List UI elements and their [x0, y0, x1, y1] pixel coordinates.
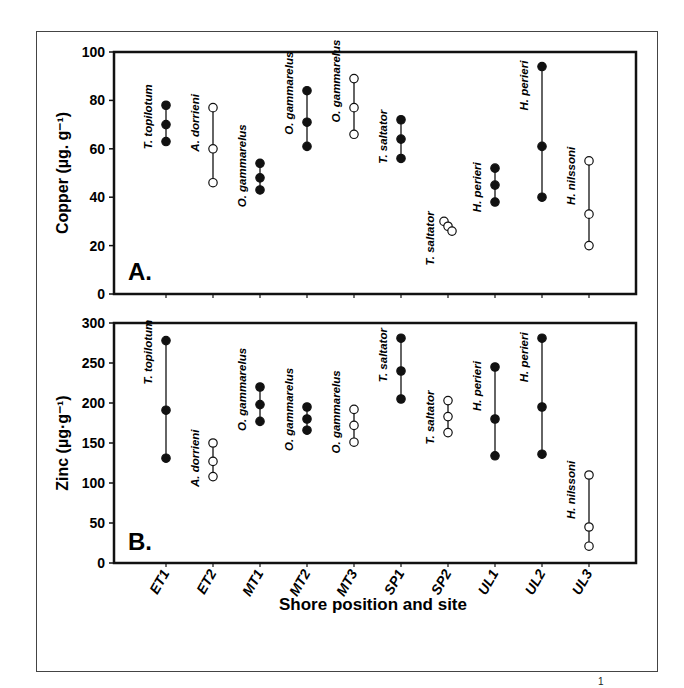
filled-data-point	[256, 417, 264, 425]
species-label: A. dorrieni	[189, 93, 201, 152]
x-tick-label: UL3	[569, 566, 596, 597]
filled-data-point	[538, 62, 546, 70]
y-axis-title: Copper (µg. g⁻¹)	[54, 112, 71, 234]
x-axis: ET1ET2MT1MT2MT3SP1SP2UL1UL2UL3	[146, 566, 596, 598]
y-tick-label: 300	[82, 315, 106, 331]
y-tick-label: 50	[89, 515, 105, 531]
filled-data-point	[162, 137, 170, 145]
x-tick-label: UL1	[475, 566, 502, 597]
species-label: T. saltator	[377, 328, 389, 383]
footnote-fragment: 1	[598, 676, 604, 687]
open-data-point	[350, 103, 358, 111]
filled-data-point	[256, 400, 264, 408]
filled-data-point	[256, 159, 264, 167]
data-series-ul3: H. nilssoni	[565, 460, 593, 550]
filled-data-point	[491, 452, 499, 460]
y-tick-label: 200	[82, 395, 106, 411]
filled-data-point	[491, 415, 499, 423]
open-data-point	[448, 227, 456, 235]
species-label: H. nilssoni	[565, 146, 577, 205]
open-data-point	[585, 157, 593, 165]
filled-data-point	[256, 383, 264, 391]
data-series-mt1: O. gammarelus	[236, 124, 264, 207]
data-series-mt1: O. gammarelus	[236, 348, 264, 431]
x-axis-title: Shore position and site	[279, 595, 467, 614]
open-data-point	[444, 428, 452, 436]
data-series-sp2: T. saltator	[424, 211, 456, 266]
open-data-point	[350, 130, 358, 138]
filled-data-point	[538, 403, 546, 411]
filled-data-point	[538, 450, 546, 458]
filled-data-point	[397, 154, 405, 162]
filled-data-point	[397, 116, 405, 124]
data-series-ul1: H. perieri	[471, 162, 499, 213]
filled-data-point	[256, 174, 264, 182]
data-series-ul2: H. perieri	[518, 60, 546, 202]
species-label: H. perieri	[518, 60, 530, 111]
filled-data-point	[303, 118, 311, 126]
open-data-point	[209, 103, 217, 111]
filled-data-point	[397, 367, 405, 375]
x-tick-label: MT2	[286, 566, 314, 598]
species-label: H. perieri	[471, 162, 483, 213]
open-data-point	[350, 438, 358, 446]
species-label: T. saltator	[424, 390, 436, 445]
data-series-ul3: H. nilssoni	[565, 146, 593, 250]
filled-data-point	[303, 426, 311, 434]
data-series-sp1: T. saltator	[377, 328, 405, 404]
open-data-point	[350, 405, 358, 413]
filled-data-point	[256, 186, 264, 194]
filled-data-point	[303, 87, 311, 95]
species-label: O. gammarelus	[283, 52, 295, 135]
data-series-ul2: H. perieri	[518, 332, 546, 459]
filled-data-point	[397, 135, 405, 143]
species-label: O. gammarelus	[330, 40, 342, 123]
open-data-point	[209, 439, 217, 447]
species-label: H. nilssoni	[565, 460, 577, 519]
panel-b-zinc: 050100150200250300Zinc (µg·g⁻¹)B.T. topi…	[54, 315, 636, 571]
y-tick-label: 60	[89, 141, 105, 157]
open-data-point	[585, 241, 593, 249]
data-series-et1: T. topilotum	[142, 84, 170, 149]
filled-data-point	[303, 403, 311, 411]
data-series-mt2: O. gammarelus	[283, 52, 311, 151]
filled-data-point	[491, 164, 499, 172]
open-data-point	[585, 210, 593, 218]
y-tick-label: 0	[97, 286, 105, 302]
data-series-sp1: T. saltator	[377, 109, 405, 164]
panel-label: A.	[128, 258, 152, 285]
open-data-point	[350, 74, 358, 82]
data-series-mt3: O. gammarelus	[330, 40, 358, 139]
open-data-point	[350, 421, 358, 429]
filled-data-point	[162, 101, 170, 109]
data-series-ul1: H. perieri	[471, 360, 499, 460]
species-label: O. gammarelus	[330, 370, 342, 453]
x-tick-label: ET2	[193, 566, 220, 596]
open-data-point	[585, 542, 593, 550]
filled-data-point	[303, 142, 311, 150]
x-tick-label: MT1	[239, 566, 267, 598]
x-tick-label: SP2	[428, 566, 455, 597]
data-series-sp2: T. saltator	[424, 390, 452, 445]
x-tick-label: UL2	[522, 566, 549, 597]
filled-data-point	[491, 181, 499, 189]
species-label: T. saltator	[424, 211, 436, 266]
filled-data-point	[162, 336, 170, 344]
y-axis-title: Zinc (µg·g⁻¹)	[54, 395, 71, 490]
x-tick-label: MT3	[333, 566, 361, 598]
y-tick-label: 20	[89, 238, 105, 254]
data-series-et2: A. dorrieni	[189, 93, 217, 187]
open-data-point	[585, 471, 593, 479]
open-data-point	[209, 145, 217, 153]
filled-data-point	[397, 395, 405, 403]
species-label: A. dorrieni	[189, 429, 201, 488]
open-data-point	[209, 472, 217, 480]
x-tick-label: SP1	[381, 566, 408, 597]
metal-concentration-chart: 020406080100Copper (µg. g⁻¹)A.T. topilot…	[0, 0, 684, 688]
filled-data-point	[162, 120, 170, 128]
data-series-mt3: O. gammarelus	[330, 370, 358, 453]
open-data-point	[209, 178, 217, 186]
plot-area	[114, 52, 636, 294]
y-tick-label: 40	[89, 189, 105, 205]
x-tick-label: ET1	[146, 566, 173, 596]
